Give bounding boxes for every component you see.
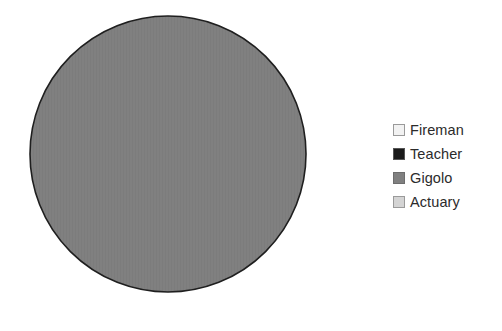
legend-label-teacher: Teacher	[410, 146, 462, 162]
pie-slice-gigolo[interactable]	[30, 16, 306, 292]
legend-swatch-teacher	[393, 148, 405, 160]
legend: Fireman Teacher Gigolo Actuary	[393, 118, 499, 214]
plot-area	[0, 0, 340, 331]
legend-swatch-fireman	[393, 124, 405, 136]
legend-item-fireman[interactable]: Fireman	[393, 118, 499, 142]
legend-swatch-gigolo	[393, 172, 405, 184]
legend-label-actuary: Actuary	[410, 194, 460, 210]
legend-label-gigolo: Gigolo	[410, 170, 453, 186]
legend-item-gigolo[interactable]: Gigolo	[393, 166, 499, 190]
legend-item-actuary[interactable]: Actuary	[393, 190, 499, 214]
pie-svg	[0, 0, 340, 331]
legend-label-fireman: Fireman	[410, 122, 464, 138]
legend-item-teacher[interactable]: Teacher	[393, 142, 499, 166]
legend-swatch-actuary	[393, 196, 405, 208]
pie-chart-figure: Fireman Teacher Gigolo Actuary	[0, 0, 502, 331]
